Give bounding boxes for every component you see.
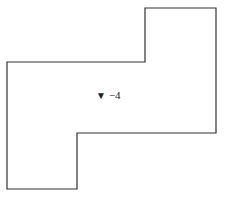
level-marker: ▼−4 (96, 89, 121, 102)
level-value: −4 (109, 89, 121, 101)
down-triangle-icon: ▼ (96, 90, 106, 101)
